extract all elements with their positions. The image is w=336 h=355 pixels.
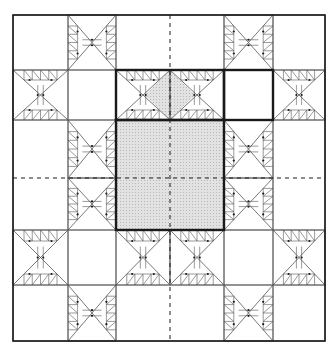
feather-point [153,273,155,275]
feather-unit [116,230,170,285]
feather-point [131,79,133,81]
feather-point [301,256,303,258]
feather-point [139,94,141,96]
feather-point [233,136,235,138]
feather-point [77,160,79,162]
feather-point [262,160,264,162]
feather-point [153,240,155,242]
feather-point [91,309,93,311]
feather-point [105,160,107,162]
feather-point [131,240,133,242]
feather-point [262,52,264,54]
feather-point [77,136,79,138]
feather-point [262,301,264,303]
feather-point [295,94,297,96]
feather-point [247,151,249,153]
feather-point [308,273,310,275]
feather-point [77,301,79,303]
feather-point [37,256,39,258]
feather-unit [273,230,325,285]
feather-point [288,79,290,81]
feather-point [105,52,107,54]
feather-unit [68,15,116,70]
feather-point [262,323,264,325]
feather-unit [68,178,116,230]
feather-point [185,109,187,111]
feather-point [139,256,141,258]
feather-unit [68,120,116,178]
feather-point [105,213,107,215]
feather-point [262,30,264,32]
feather-point [262,193,264,195]
feather-point [91,39,93,41]
plain-center-square-outline [224,70,273,120]
feather-point [153,79,155,81]
feather-point [105,323,107,325]
feather-point [233,301,235,303]
feather-point [288,109,290,111]
feather-point [77,30,79,32]
feather-point [37,94,39,96]
feather-point [247,145,249,147]
feather-point [308,109,310,111]
feather-point [308,240,310,242]
feather-point [91,44,93,46]
feather-point [77,52,79,54]
feather-point [288,273,290,275]
feather-point [50,240,52,242]
feather-point [145,94,147,96]
feather-point [28,109,30,111]
feather-point [301,94,303,96]
feather-point [199,94,201,96]
feather-point [233,323,235,325]
feather-point [28,79,30,81]
feather-point [77,193,79,195]
feather-unit [170,230,224,285]
feather-point [77,323,79,325]
feather-point [193,256,195,258]
feather-point [91,206,93,208]
feather-point [50,79,52,81]
feather-unit [68,285,116,341]
feather-point [199,256,201,258]
feather-point [77,213,79,215]
feather-unit [224,285,273,341]
feather-unit [13,230,68,285]
feather-point [50,273,52,275]
feather-point [233,160,235,162]
feather-point [185,240,187,242]
feather-point [91,151,93,153]
feather-unit [273,70,325,120]
feather-point [207,109,209,111]
feather-point [185,273,187,275]
feather-unit [224,15,273,70]
feather-point [193,94,195,96]
feather-point [91,315,93,317]
feather-point [91,145,93,147]
feather-point [207,79,209,81]
feather-point [131,273,133,275]
feather-unit [224,120,273,178]
feather-point [50,109,52,111]
feather-point [153,109,155,111]
feather-point [233,213,235,215]
feather-point [105,193,107,195]
feather-point [247,309,249,311]
feather-point [247,44,249,46]
center-dashed-lines [13,15,325,341]
feather-point [28,240,30,242]
feather-point [247,39,249,41]
feather-unit [224,178,273,230]
feather-point [247,206,249,208]
feather-point [308,79,310,81]
feather-point [185,79,187,81]
feather-point [295,256,297,258]
feather-point [42,256,44,258]
feather-point [91,200,93,202]
feather-point [28,273,30,275]
feather-point [105,136,107,138]
feather-point [288,240,290,242]
feather-point [207,273,209,275]
feather-point [42,94,44,96]
feather-point [105,301,107,303]
